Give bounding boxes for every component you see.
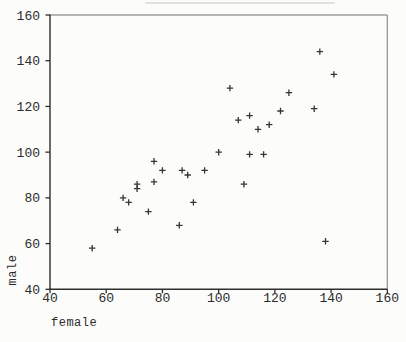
data-point-marker: [277, 108, 283, 114]
data-point-marker: [120, 195, 126, 201]
y-tick-label: 40: [24, 283, 40, 298]
data-point-marker: [246, 151, 252, 157]
x-tick-label: 40: [42, 291, 58, 306]
x-tick-label: 80: [155, 291, 171, 306]
y-axis-title: male: [6, 255, 20, 286]
data-point-marker: [159, 167, 165, 173]
data-point-marker: [260, 151, 266, 157]
data-point-marker: [145, 208, 151, 214]
scatter-plot-figure: 406080100120140160406080100120140160 mal…: [0, 0, 406, 342]
x-tick-label: 120: [263, 291, 286, 306]
x-tick-label: 140: [319, 291, 342, 306]
y-tick-label: 60: [24, 237, 40, 252]
data-point-marker: [266, 122, 272, 128]
data-point-marker: [246, 112, 252, 118]
data-point-marker: [286, 90, 292, 96]
data-point-marker: [317, 48, 323, 54]
data-point-marker: [255, 126, 261, 132]
data-point-marker: [89, 245, 95, 251]
y-tick-label: 140: [17, 54, 40, 69]
x-tick-label: 160: [376, 291, 399, 306]
y-tick-label: 80: [24, 191, 40, 206]
x-tick-label: 100: [207, 291, 230, 306]
data-point-marker: [134, 181, 140, 187]
x-tick-label: 60: [98, 291, 114, 306]
x-axis-title: female: [51, 316, 97, 330]
data-point-marker: [151, 158, 157, 164]
data-point-marker: [331, 71, 337, 77]
data-point-marker: [176, 222, 182, 228]
y-tick-label: 160: [17, 9, 40, 24]
y-tick-label: 100: [17, 146, 40, 161]
data-point-marker: [241, 181, 247, 187]
data-point-marker: [227, 85, 233, 91]
data-point-marker: [322, 238, 328, 244]
data-point-marker: [216, 149, 222, 155]
data-point-marker: [201, 167, 207, 173]
data-point-marker: [151, 179, 157, 185]
data-point-marker: [126, 199, 132, 205]
data-point-marker: [185, 172, 191, 178]
data-point-marker: [190, 199, 196, 205]
data-point-marker: [311, 106, 317, 112]
data-point-marker: [235, 117, 241, 123]
y-tick-label: 120: [17, 100, 40, 115]
data-point-marker: [179, 167, 185, 173]
data-point-marker: [114, 227, 120, 233]
scatter-plot-canvas: 406080100120140160406080100120140160: [0, 0, 406, 342]
